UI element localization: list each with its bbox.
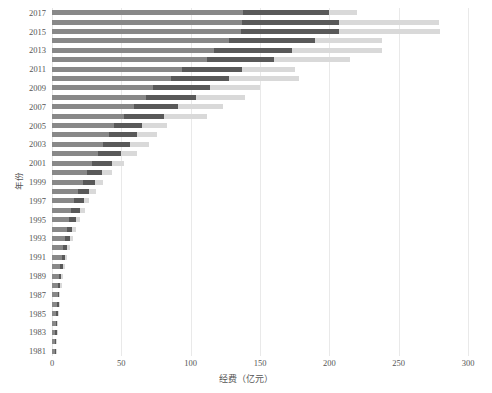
bar-segment-series-c	[242, 67, 295, 72]
bar-segment-series-c	[142, 123, 167, 128]
bar-segment-series-b	[243, 10, 329, 15]
bar-segment-series-c	[339, 20, 439, 25]
bar-segment-series-a	[52, 132, 109, 137]
y-tick-label: 1995	[29, 216, 46, 224]
bar-row	[52, 274, 63, 279]
bar-segment-series-c	[329, 10, 357, 15]
bar-segment-series-c	[229, 76, 298, 81]
bar-segment-series-a	[52, 198, 74, 203]
bar-segment-series-a	[52, 29, 241, 34]
bar-segment-series-a	[52, 85, 153, 90]
bar-row	[52, 198, 89, 203]
bar-segment-series-b	[103, 142, 129, 147]
bar-segment-series-b	[182, 67, 242, 72]
bar-segment-series-c	[196, 95, 245, 100]
bar-segment-series-c	[137, 132, 158, 137]
bar-row	[52, 189, 96, 194]
bar-row	[52, 330, 57, 335]
bar-segment-series-a	[52, 227, 67, 232]
x-tick-label: 100	[184, 358, 197, 368]
bar-row	[52, 217, 80, 222]
x-tick-label: 300	[462, 358, 475, 368]
bar-row	[52, 161, 124, 166]
bar-segment-series-c	[72, 227, 75, 232]
bar-segment-series-a	[52, 245, 63, 250]
bar-segment-series-a	[52, 189, 78, 194]
bar-row	[52, 302, 59, 307]
x-axis-title: 经费（亿元）	[0, 372, 492, 385]
bar-row	[52, 48, 382, 53]
bar-row	[52, 114, 207, 119]
bar-row	[52, 227, 76, 232]
bar-segment-series-c	[164, 114, 207, 119]
bar-segment-series-b	[229, 38, 315, 43]
bar-segment-series-a	[52, 170, 87, 175]
bar-segment-series-b	[242, 20, 339, 25]
y-axis-title: 年份	[12, 161, 24, 201]
y-tick-label: 1993	[29, 234, 46, 242]
bar-segment-series-b	[74, 198, 84, 203]
bar-segment-series-a	[52, 217, 69, 222]
bar-segment-series-c	[65, 255, 67, 260]
y-tick-label: 2005	[29, 122, 46, 130]
bar-segment-series-c	[56, 349, 57, 354]
bar-row	[52, 20, 439, 25]
bar-row	[52, 208, 85, 213]
y-tick-label: 1989	[29, 272, 46, 280]
bar-segment-series-a	[52, 76, 171, 81]
bar-segment-series-c	[84, 198, 90, 203]
bar-segment-series-b	[171, 76, 229, 81]
y-tick-label: 2015	[29, 28, 46, 36]
bar-segment-series-c	[61, 274, 62, 279]
bar-segment-series-a	[52, 161, 92, 166]
bar-segment-series-b	[207, 57, 274, 62]
bar-row	[52, 123, 167, 128]
bar-row	[52, 283, 62, 288]
bar-segment-series-c	[292, 48, 382, 53]
bar-row	[52, 104, 223, 109]
bar-segment-series-b	[78, 189, 89, 194]
bar-segment-series-a	[52, 236, 65, 241]
bar-segment-series-a	[52, 264, 60, 269]
bar-segment-series-b	[87, 170, 102, 175]
bar-segment-series-c	[80, 208, 85, 213]
bar-segment-series-b	[98, 151, 122, 156]
y-tick-label: 2003	[29, 140, 46, 148]
x-tick-label: 50	[117, 358, 126, 368]
bar-segment-series-a	[52, 151, 98, 156]
bar-segment-series-c	[58, 311, 59, 316]
bar-segment-series-b	[146, 95, 196, 100]
bar-row	[52, 132, 157, 137]
bar-row	[52, 236, 73, 241]
bar-segment-series-b	[124, 114, 164, 119]
y-tick-label: 1997	[29, 197, 46, 205]
bar-segment-series-a	[52, 38, 229, 43]
bar-row	[52, 264, 65, 269]
bar-segment-series-a	[52, 67, 182, 72]
y-tick-label: 2013	[29, 46, 46, 54]
bar-segment-series-c	[102, 170, 112, 175]
bar-row	[52, 292, 60, 297]
bar-row	[52, 170, 112, 175]
bar-row	[52, 255, 67, 260]
y-tick-label: 1981	[29, 347, 46, 355]
bar-row	[52, 67, 295, 72]
bar-segment-series-a	[52, 180, 83, 185]
bar-segment-series-c	[56, 339, 57, 344]
bar-row	[52, 151, 137, 156]
bar-row	[52, 76, 299, 81]
y-tick-label: 1987	[29, 291, 46, 299]
bar-segment-series-c	[178, 104, 222, 109]
bar-segment-series-b	[71, 208, 79, 213]
bar-segment-series-c	[59, 292, 60, 297]
bar-row	[52, 29, 440, 34]
bar-segment-series-a	[52, 104, 134, 109]
bar-segment-series-b	[241, 29, 339, 34]
bar-segment-series-a	[52, 208, 71, 213]
bar-row	[52, 339, 57, 344]
x-tick-label: 250	[392, 358, 405, 368]
bar-row	[52, 57, 350, 62]
plot-area	[52, 8, 468, 356]
y-tick-label: 2017	[29, 9, 46, 17]
bar-segment-series-c	[59, 302, 60, 307]
